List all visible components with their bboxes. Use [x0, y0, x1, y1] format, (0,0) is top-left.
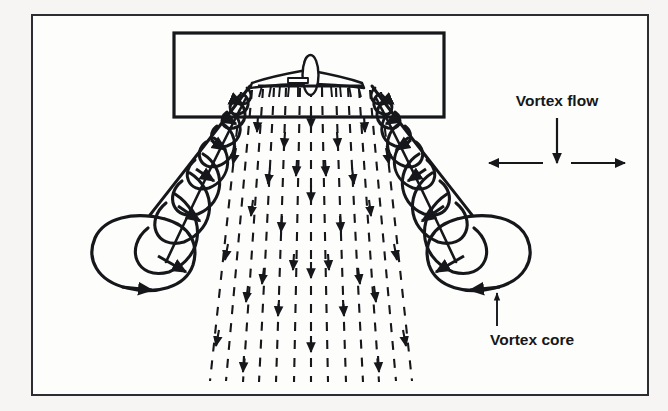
vortex-core-label: Vortex core: [490, 331, 575, 348]
vortex-flow-label: Vortex flow: [516, 92, 599, 109]
figure-canvas: Vortex flow Vortex core: [0, 0, 668, 411]
wake-vortex-diagram: Vortex flow Vortex core: [0, 0, 668, 411]
